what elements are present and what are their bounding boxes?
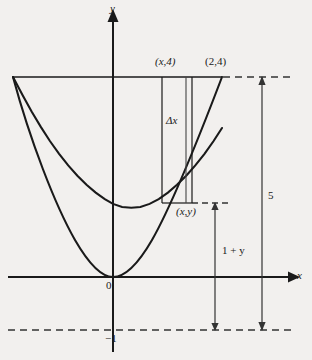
delta-x-label: Δx <box>166 115 177 126</box>
origin-label: 0 <box>106 280 112 291</box>
parabola-curve <box>13 77 222 208</box>
point-label-2-4: (2,4) <box>205 56 226 67</box>
total-height-label: 5 <box>268 190 274 201</box>
point-label-x-y: (x,y) <box>176 206 196 217</box>
negative-one-label: −1 <box>105 333 117 344</box>
x-axis-label: x <box>297 270 302 281</box>
y-axis-label: y <box>110 3 115 14</box>
parabola-curve-right-branch <box>168 77 222 193</box>
partial-height-label: 1 + y <box>222 245 245 256</box>
partial-height-dimension-arrow <box>211 202 218 331</box>
total-height-dimension-arrow <box>258 76 265 331</box>
point-label-x-4: (x,4) <box>155 56 175 67</box>
parabola-y-equals-x-squared <box>13 77 222 277</box>
parabola-figure <box>0 0 312 360</box>
